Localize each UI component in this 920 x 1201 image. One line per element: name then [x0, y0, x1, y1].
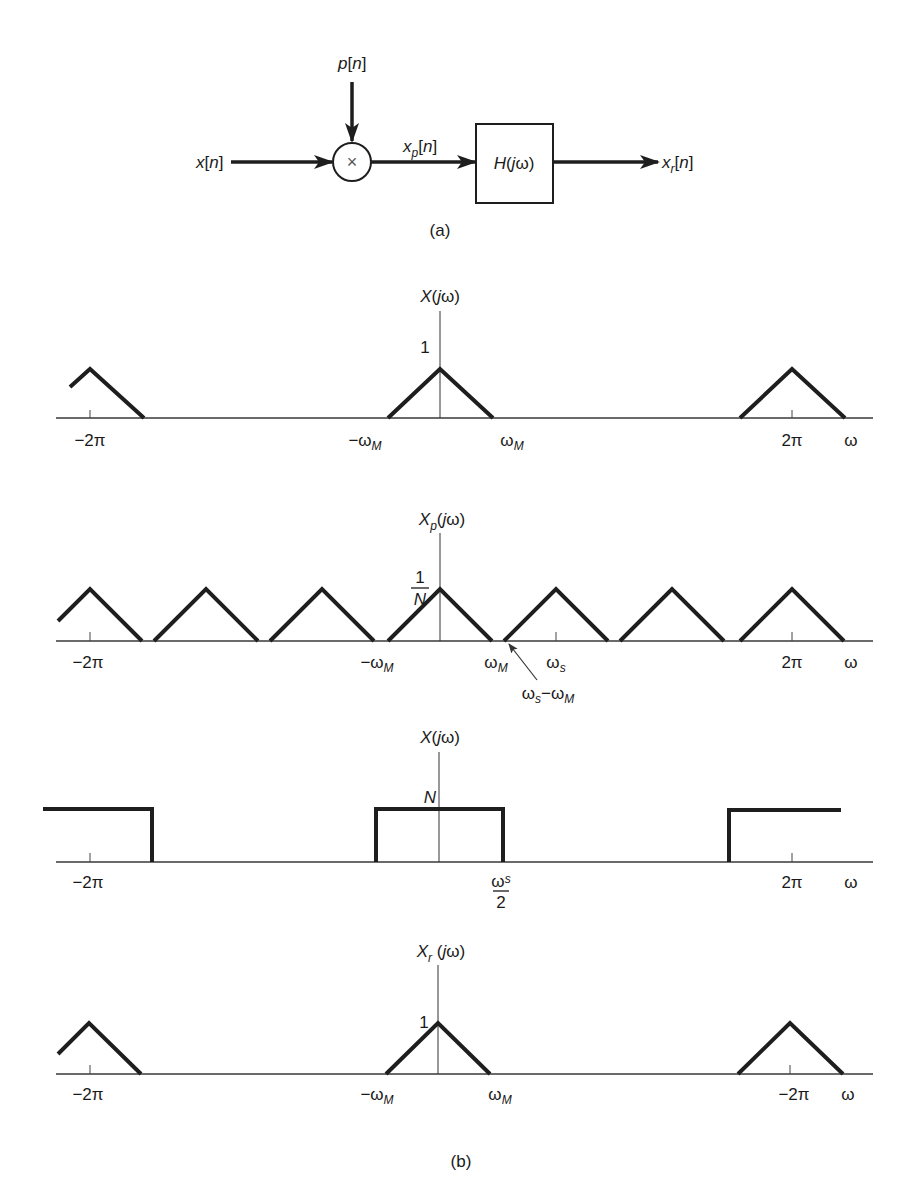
- gain-label: N: [424, 788, 437, 807]
- axis-label-omega: ω: [844, 653, 857, 672]
- cutoff-label-numerator: ωs: [491, 872, 510, 891]
- axis-label-omega: ω: [841, 1085, 854, 1104]
- tick-label-pos2pi: 2π: [781, 431, 802, 450]
- tick-label-pos2pi: 2π: [781, 873, 802, 892]
- figure-canvas: p[pn] x[n] × xp[n] H(jω) xr[n] (a) X(jω)…: [0, 0, 920, 1201]
- output-label: xr[n]: [661, 153, 693, 176]
- axis-label-omega: ω: [844, 431, 857, 450]
- chart-title: X(jω): [419, 728, 460, 747]
- peak-label-denominator: N: [414, 590, 427, 609]
- peak-label: 1: [420, 338, 429, 357]
- passband-right: [729, 810, 841, 862]
- tick-label-neg-omega-m: −ωM: [348, 431, 381, 453]
- replica: [154, 589, 258, 641]
- tick-label-neg-omega-m: −ωM: [360, 653, 393, 675]
- tick-label-neg2pi: −2π: [72, 1085, 103, 1104]
- filter-label: H(jω): [494, 154, 535, 173]
- filter-response: X(jω) N −2π ωs 2 2π ω: [43, 728, 873, 912]
- passband-left: [43, 809, 152, 862]
- annotation-arrow: [509, 644, 537, 680]
- spectrum-x: X(jω) 1 −2π −ωM ωM 2π ω: [56, 287, 873, 453]
- tick-label-omega-m: ωM: [484, 653, 507, 675]
- cutoff-label-denominator: 2: [496, 893, 505, 912]
- part-a-caption: (a): [430, 221, 451, 240]
- replica-left: [70, 369, 144, 418]
- tick-label-neg-omega-m: −ωM: [360, 1085, 393, 1107]
- spectrum-xr: Xr (jω) 1 −2π −ωM ωM −2π ω: [56, 942, 873, 1107]
- multiply-icon: ×: [347, 152, 358, 172]
- tick-label-omega-s: ωs: [546, 653, 565, 675]
- chart-title: Xr (jω): [416, 942, 465, 965]
- modulator-label: p[pn]: [337, 54, 366, 73]
- part-b-caption: (b): [451, 1152, 472, 1171]
- tick-label-neg2pi: −2π: [72, 873, 103, 892]
- tick-label-omega-m: ωM: [488, 1085, 511, 1107]
- replica: [270, 589, 374, 641]
- replica: [58, 589, 142, 641]
- tick-label-neg2pi: −2π: [72, 653, 103, 672]
- tick-label-pos2pi: 2π: [781, 653, 802, 672]
- replica: [620, 589, 724, 641]
- replica-left: [58, 1023, 141, 1074]
- intermediate-label: xp[n]: [402, 137, 437, 160]
- axis-label-omega: ω: [844, 873, 857, 892]
- chart-title: X(jω): [419, 287, 460, 306]
- block-diagram: p[pn] x[n] × xp[n] H(jω) xr[n] (a): [195, 54, 693, 240]
- chart-title: Xp(jω): [418, 510, 465, 533]
- input-label: x[n]: [195, 153, 223, 172]
- peak-label-numerator: 1: [415, 568, 424, 587]
- tick-label-neg2pi: −2π: [74, 431, 105, 450]
- tick-label-omega-m: ωM: [500, 431, 523, 453]
- annotation-label: ωs−ωM: [522, 684, 575, 706]
- peak-label: 1: [419, 1013, 428, 1032]
- spectrum-xp: Xp(jω) 1 N −2π −ωM ωM ωs 2π ω ωs−ωM: [56, 510, 873, 706]
- tick-label-right2pi: −2π: [778, 1085, 809, 1104]
